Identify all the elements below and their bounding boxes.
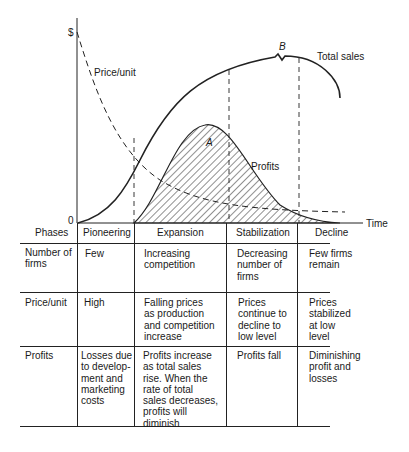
cell: Diminishing profit and losses <box>309 350 361 384</box>
x-axis-label: Time <box>366 218 388 229</box>
total-sales-label: Total sales <box>317 51 364 62</box>
phase-stabilization: Stabilization <box>236 227 290 238</box>
cell: Few <box>85 248 104 259</box>
point-b-label: B <box>279 41 286 52</box>
cell: Falling prices as production and competi… <box>144 297 215 342</box>
row-header-price-unit: Price/unit <box>25 297 67 308</box>
cell: Decreasing number of firms <box>237 248 288 282</box>
table-rule-3 <box>20 346 330 347</box>
table-rule-2 <box>20 292 330 293</box>
phase-decline: Decline <box>315 227 348 238</box>
cell: High <box>84 297 105 308</box>
origin-label: 0 <box>68 215 74 226</box>
y-axis-label: $ <box>68 27 74 38</box>
phase-expansion: Expansion <box>157 227 204 238</box>
price-unit-label: Price/unit <box>94 67 136 78</box>
point-a-label: A <box>206 137 213 148</box>
cell: Prices continue to decline to low level <box>238 297 287 342</box>
cell: Profits fall <box>237 350 281 361</box>
cell: Losses due to develop- ment and marketin… <box>81 350 132 406</box>
cell: Increasing competition <box>144 248 195 271</box>
profits-label: Profits <box>251 161 279 172</box>
cell: Few firms remain <box>309 248 352 271</box>
row-header-phases: Phases <box>35 227 68 238</box>
row-header-number-of-firms: Number of firms <box>25 247 72 270</box>
life-cycle-chart <box>0 0 409 230</box>
row-header-profits: Profits <box>25 350 53 361</box>
profits-area <box>134 125 340 223</box>
phase-pioneering: Pioneering <box>83 227 131 238</box>
table-rule-1 <box>20 243 330 244</box>
cell: Prices stabilized at low level <box>309 297 351 342</box>
cell: Profits increase as total sales rise. Wh… <box>143 350 218 429</box>
